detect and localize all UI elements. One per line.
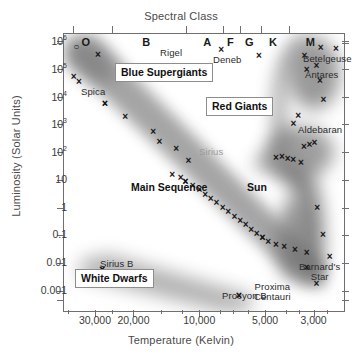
star-label-sirius: Sirius	[199, 146, 223, 157]
spectral-class-tick	[261, 26, 262, 33]
star-label-spica: Spica	[81, 86, 105, 97]
star-label-antares: Antares	[305, 69, 338, 80]
spectral-class-A: A	[195, 36, 219, 48]
region-label-red-giants: Red Giants	[206, 97, 273, 116]
region-label-white-dwarfs: White Dwarfs	[75, 269, 154, 288]
spectral-class-tick	[240, 26, 241, 33]
star-label-proxima-centauri: ProximaCentauri	[254, 282, 291, 302]
star-label-deneb: Deneb	[213, 54, 242, 65]
spectral-class-tick	[223, 26, 224, 33]
spectral-class-B: B	[134, 36, 158, 48]
star-label-betelgeuse: Betelgeuse	[303, 53, 352, 64]
star-label-aldebaran: Aldebaran	[298, 124, 342, 135]
star-label-proxima-centauri-text: ProximaCentauri	[254, 281, 291, 302]
spectral-class-tick	[112, 26, 113, 33]
region-label-main-sequence: Main Sequence	[131, 181, 207, 193]
hr-diagram-figure: Spectral Class Luminosity (Solar Units) …	[0, 0, 362, 358]
region-label-blue-supergiants: Blue Supergiants	[115, 63, 213, 82]
star-label-barnards-star-text: Barnard'sStar	[299, 261, 340, 282]
spectral-class-O: O	[74, 36, 98, 48]
spectral-class-tick	[186, 26, 187, 33]
spectral-class-G: G	[237, 36, 261, 48]
star-label-sun: Sun	[247, 181, 267, 193]
star-label-barnards-star: Barnard'sStar	[299, 262, 340, 282]
spectral-class-K: K	[261, 36, 285, 48]
spectral-class-M: M	[298, 36, 322, 48]
star-label-sirius-b: Sirius B	[100, 258, 134, 269]
spectral-class-tick	[73, 26, 74, 33]
star-label-rigel: Rigel	[160, 47, 182, 58]
spectral-class-tick	[289, 26, 290, 33]
